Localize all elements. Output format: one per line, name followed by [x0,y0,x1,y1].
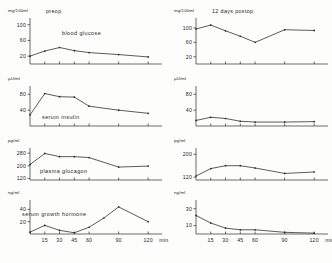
svg-text:15: 15 [42,237,48,243]
svg-text:60: 60 [20,37,26,43]
svg-text:40: 40 [20,107,26,113]
svg-text:200: 200 [183,151,192,157]
svg-text:80: 80 [20,91,26,97]
svg-text:15: 15 [208,237,214,243]
svg-text:60: 60 [86,237,92,243]
plot-area-growth-hormone-postop: 10301530456090120min [166,190,332,256]
svg-text:60: 60 [186,39,192,45]
svg-text:10: 10 [186,222,192,228]
chart-panel-growth-hormone-postop: ng/ml 10301530456090120min [166,190,332,256]
plot-area-blood-glucose-preop: 2060100 [0,8,166,74]
svg-text:100: 100 [183,25,192,31]
chart-column-preop: mg/100ml preop. blood glucose 2060100 µU… [0,0,166,263]
chart-panel-plasma-glucagon-preop: pg/ml plasma glucagon 120200280 [0,138,166,190]
svg-text:90: 90 [115,237,121,243]
plot-area-blood-glucose-postop: 2060100 [166,8,332,74]
svg-text:20: 20 [20,219,26,225]
svg-text:60: 60 [252,237,258,243]
svg-text:100: 100 [17,22,26,28]
svg-text:45: 45 [237,237,243,243]
svg-text:min: min [325,237,332,243]
svg-text:20: 20 [186,54,192,60]
svg-text:40: 40 [186,107,192,113]
svg-text:40: 40 [20,206,26,212]
svg-text:20: 20 [20,53,26,59]
svg-text:90: 90 [281,237,287,243]
chart-panel-blood-glucose-postop: mg/100ml 12 days postop 2060100 [166,8,332,74]
chart-panel-serum-insulin-postop: µU/ml 4080 [166,76,332,136]
chart-panel-serum-insulin-preop: µU/ml serum insulin 4080 [0,76,166,136]
plot-area-serum-insulin-postop: 4080 [166,76,332,136]
svg-text:120: 120 [143,237,153,243]
svg-text:120: 120 [17,175,26,181]
chart-panel-plasma-glucagon-postop: pg/ml 120200 [166,138,332,190]
svg-text:45: 45 [71,237,77,243]
figure-panel-grid: mg/100ml preop. blood glucose 2060100 µU… [0,0,332,263]
svg-text:80: 80 [186,91,192,97]
svg-text:30: 30 [222,237,228,243]
plot-area-plasma-glucagon-preop: 120200280 [0,138,166,190]
chart-column-postop: mg/100ml 12 days postop 2060100 µU/ml 40… [166,0,332,263]
svg-text:30: 30 [56,237,62,243]
chart-panel-blood-glucose-preop: mg/100ml preop. blood glucose 2060100 [0,8,166,74]
svg-text:200: 200 [17,163,26,169]
svg-text:120: 120 [309,237,319,243]
svg-text:280: 280 [17,150,26,156]
svg-text:120: 120 [183,174,192,180]
svg-text:30: 30 [186,206,192,212]
chart-panel-growth-hormone-preop: ng/ml serum growth hormone 2040153045609… [0,190,166,256]
plot-area-plasma-glucagon-postop: 120200 [166,138,332,190]
plot-area-serum-insulin-preop: 4080 [0,76,166,136]
plot-area-growth-hormone-preop: 20401530456090120min [0,190,166,256]
